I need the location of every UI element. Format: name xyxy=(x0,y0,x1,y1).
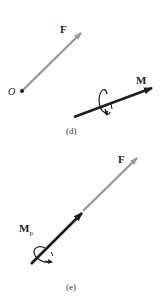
diagram-canvas: F O M (d) F Mp (e) xyxy=(0,0,160,299)
moment-vector-d xyxy=(74,88,152,117)
moment-vector-e xyxy=(31,213,82,264)
moment-label-e-subscript: p xyxy=(29,229,33,237)
force-label-e: F xyxy=(118,153,125,165)
caption-d: (d) xyxy=(66,126,77,136)
moment-label-e: Mp xyxy=(19,222,33,237)
force-vector-e xyxy=(83,158,137,211)
panel-e: F Mp (e) xyxy=(19,153,137,292)
panel-d: F O M (d) xyxy=(8,23,152,136)
force-label-d: F xyxy=(60,23,67,35)
rotation-arrow-icon xyxy=(34,247,53,263)
caption-e: (e) xyxy=(66,282,76,292)
force-vector-d xyxy=(23,33,81,90)
moment-label-d: M xyxy=(136,74,147,86)
moment-label-e-main: M xyxy=(19,222,30,234)
point-label-o: O xyxy=(8,86,15,97)
point-o-icon xyxy=(20,89,24,93)
